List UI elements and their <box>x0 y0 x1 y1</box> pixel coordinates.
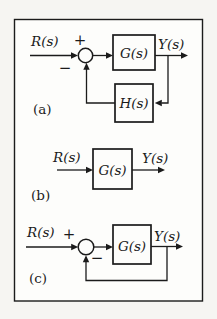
panel-a-input-signal-label: R(s) <box>30 33 59 49</box>
panel-b-forward-block-label: G(s) <box>98 162 126 178</box>
block-diagram-figure: R(s) + G(s) Y(s) H(s) <box>0 0 217 319</box>
panel-c-forward-block-label: G(s) <box>118 238 146 254</box>
panel-a-summing-junction <box>78 48 92 62</box>
panel-c-input-signal-label: R(s) <box>26 224 55 240</box>
panel-b-output-signal-label: Y(s) <box>142 150 168 166</box>
panel-c-output-signal-label: Y(s) <box>154 228 180 244</box>
panel-a-plus-sign: + <box>74 31 87 49</box>
scanned-figure-page: R(s) + G(s) Y(s) H(s) <box>0 0 217 319</box>
panel-b-input-signal-label: R(s) <box>52 149 81 165</box>
panel-a-output-signal-label: Y(s) <box>158 36 184 52</box>
panel-b-label: (b) <box>31 187 50 203</box>
panel-a-minus-sign: − <box>59 59 72 77</box>
panel-a-label: (a) <box>33 101 52 117</box>
panel-c-label: (c) <box>29 270 47 286</box>
panel-a-feedback-block-label: H(s) <box>118 95 148 111</box>
panel-a-forward-block-label: G(s) <box>120 45 148 61</box>
panel-c-plus-sign: + <box>63 225 76 243</box>
panel-c-minus-sign: − <box>91 249 104 267</box>
